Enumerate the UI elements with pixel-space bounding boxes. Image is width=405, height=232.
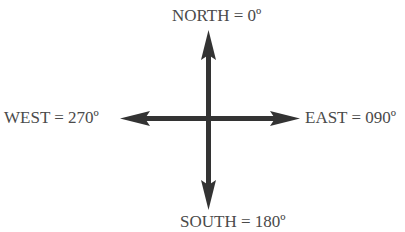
compass-diagram: NORTH = 0º WEST = 270º EAST = 090º SOUTH… (0, 0, 405, 232)
north-label: NORTH = 0º (172, 6, 261, 26)
south-label: SOUTH = 180º (180, 212, 286, 232)
horizontal-arrow-shaft (138, 116, 283, 121)
west-label: WEST = 270º (4, 108, 99, 128)
east-label: EAST = 090º (305, 108, 396, 128)
